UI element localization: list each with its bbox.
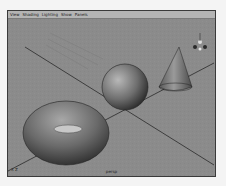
scene-render bbox=[8, 19, 215, 177]
viewport-panel: View Shading Lighting Show Panels bbox=[7, 10, 216, 177]
torus-object[interactable] bbox=[23, 101, 109, 165]
menu-lighting[interactable]: Lighting bbox=[42, 11, 58, 18]
menu-shading[interactable]: Shading bbox=[23, 11, 39, 18]
menu-show[interactable]: Show bbox=[61, 11, 72, 18]
menu-view[interactable]: View bbox=[10, 11, 20, 18]
3d-viewport[interactable]: X Z persp bbox=[8, 19, 215, 176]
sphere-object[interactable] bbox=[102, 64, 148, 110]
menu-panels[interactable]: Panels bbox=[75, 11, 88, 18]
camera-name-label: persp bbox=[8, 169, 215, 174]
panel-menubar: View Shading Lighting Show Panels bbox=[8, 11, 215, 19]
